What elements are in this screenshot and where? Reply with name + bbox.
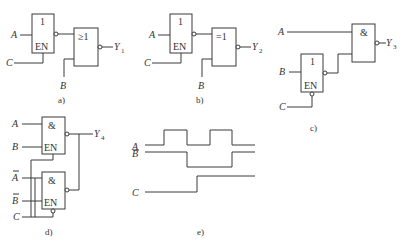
inversion-bubble — [375, 41, 379, 45]
enable-label: EN — [44, 197, 57, 208]
input-label-a: A — [10, 29, 18, 40]
input-label-b: B — [279, 66, 285, 77]
input-label-c: C — [144, 57, 151, 68]
waveform-c — [145, 176, 255, 192]
output-subscript: 3 — [393, 43, 397, 51]
inversion-bubble — [236, 45, 240, 49]
panel-b: 1 EN A C =1 B Y 2 b) — [144, 14, 263, 105]
enable-label: EN — [173, 41, 186, 52]
output-label-y4: Y — [94, 128, 101, 139]
gate-symbol: & — [360, 27, 368, 38]
wire-c — [152, 53, 181, 63]
gate-symbol: =1 — [216, 31, 227, 42]
inversion-bubble — [54, 32, 58, 36]
output-subscript: 1 — [121, 47, 125, 55]
input-label-a: A — [148, 29, 156, 40]
caption-b: b) — [196, 95, 204, 105]
wire-b — [202, 59, 212, 77]
input-label-a-bar: A — [11, 172, 19, 183]
wire-internal — [327, 54, 352, 73]
inversion-bubble — [65, 132, 69, 136]
input-label-b-bar: B — [12, 195, 18, 206]
input-label-a: A — [277, 26, 285, 37]
output-label-y2: Y — [252, 41, 259, 52]
gate-symbol: & — [48, 120, 56, 131]
caption-c: c) — [310, 123, 317, 133]
gate-symbol: 1 — [310, 56, 315, 67]
enable-label: EN — [35, 41, 48, 52]
enable-inversion-bubble — [310, 92, 314, 96]
output-subscript: 4 — [101, 134, 105, 142]
caption-a: a) — [58, 95, 65, 105]
wire-c — [287, 96, 312, 107]
panel-d: & EN A B Y 4 & EN A B C d) — [11, 117, 105, 237]
wire-internal-output — [69, 134, 79, 190]
output-subscript: 2 — [259, 47, 263, 55]
caption-d: d) — [45, 227, 53, 237]
input-label-b: B — [198, 80, 204, 91]
caption-e: e) — [197, 227, 204, 237]
input-label-c: C — [6, 57, 13, 68]
inversion-bubble — [65, 188, 69, 192]
signal-label-c: C — [132, 187, 139, 198]
input-label-c: C — [13, 211, 20, 222]
output-label-y1: Y — [114, 41, 121, 52]
enable-inversion-bubble — [51, 209, 55, 213]
waveforms — [145, 130, 255, 192]
wire-c — [14, 53, 43, 63]
waveform-a — [145, 130, 255, 145]
gate-symbol: 1 — [178, 16, 183, 27]
panel-c: A & Y 3 1 EN B C c) — [277, 24, 397, 133]
gate-symbol: 1 — [40, 16, 45, 27]
gate-symbol: ≥1 — [78, 31, 89, 42]
logic-circuit-figure: 1 EN A C ≥1 B Y 1 a) 1 EN A C =1 B Y 2 — [0, 0, 406, 245]
enable-label: EN — [304, 80, 317, 91]
input-label-b: B — [60, 80, 66, 91]
inversion-bubble — [98, 45, 102, 49]
input-label-c: C — [279, 101, 286, 112]
enable-label: EN — [44, 142, 57, 153]
inversion-bubble — [192, 32, 196, 36]
input-label-b: B — [12, 141, 18, 152]
panel-a: 1 EN A C ≥1 B Y 1 a) — [6, 14, 125, 105]
waveform-b — [145, 152, 255, 167]
output-label-y3: Y — [386, 37, 393, 48]
inversion-bubble — [323, 71, 327, 75]
input-label-a: A — [11, 118, 19, 129]
wire-c — [22, 213, 53, 217]
wire-b — [64, 59, 74, 77]
panel-e: A B C e) — [131, 130, 255, 237]
gate-symbol: & — [48, 175, 56, 186]
